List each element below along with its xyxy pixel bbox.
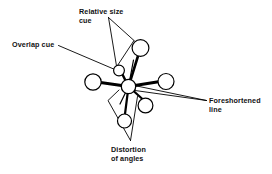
label-distortion-line1: Distortion (111, 145, 146, 154)
node-lower-right (138, 98, 153, 113)
label-distortion-of-angles: Distortion of angles (111, 145, 146, 163)
node-upper-right (132, 40, 149, 57)
label-distortion-line2: of angles (111, 154, 143, 163)
node-hub (121, 79, 135, 93)
label-overlap-cue: Overlap cue (12, 40, 54, 49)
node-bottom (118, 114, 132, 128)
label-relative-size-line2: cue (79, 16, 92, 25)
depth-cues-figure: Relative size cue Overlap cue Foreshorte… (0, 0, 272, 174)
node-upper-left (114, 65, 125, 76)
label-foreshortened-line2: line (209, 105, 222, 114)
node-left (85, 74, 101, 90)
label-foreshortened-line1: Foreshortened (209, 96, 261, 105)
node-right (158, 74, 174, 90)
label-relative-size-line1: Relative size (79, 7, 123, 16)
label-overlap-line1: Overlap cue (12, 40, 54, 49)
